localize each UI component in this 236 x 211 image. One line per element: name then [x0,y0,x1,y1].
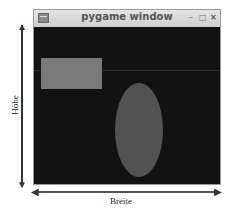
arrow-down-icon: ▼ [17,180,27,190]
maximize-icon[interactable]: □ [199,13,207,22]
minimize-icon[interactable]: – [189,13,193,22]
arrow-left-icon: ◀ [31,187,39,197]
canvas [34,27,220,184]
height-label: Höhe [10,95,20,115]
rectangle-shape [41,58,102,89]
pygame-window: pygame window – □ × [33,9,221,185]
close-icon[interactable]: × [210,13,217,22]
arrow-up-icon: ▲ [17,22,27,32]
width-label: Breite [110,196,132,206]
width-arrow [36,191,218,193]
ellipse-shape [115,83,163,177]
title-bar[interactable]: pygame window – □ × [34,10,220,28]
height-arrow [21,25,23,185]
arrow-right-icon: ▶ [214,187,222,197]
